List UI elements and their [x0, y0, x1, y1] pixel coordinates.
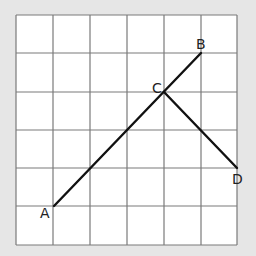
grid-diagram: A B C D [0, 0, 256, 256]
point-d-label: D [232, 171, 243, 187]
point-c-label: C [152, 80, 162, 96]
point-b-label: B [196, 36, 206, 52]
point-a-label: A [40, 205, 50, 221]
